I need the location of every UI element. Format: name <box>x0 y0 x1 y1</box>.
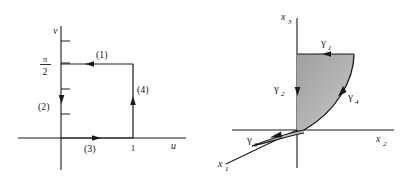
panel-x-space: x 3 x 2 x 1 γ 1 γ 2 γ 3 γ 4 <box>208 0 416 177</box>
x1-axis-label: x <box>217 158 223 169</box>
gamma-3-subscript: 3 <box>253 141 258 149</box>
x1-axis-subscript: 1 <box>225 165 229 173</box>
pi-over-two-denominator: 2 <box>43 66 48 77</box>
gamma-3-arrowhead <box>270 132 282 138</box>
segment-3-label: (3) <box>84 143 96 155</box>
figure-root: v u π 2 1 (1) (2) (3) (4) <box>0 0 416 177</box>
gamma-4-label: γ <box>347 90 353 102</box>
panel-uv-plane: v u π 2 1 (1) (2) (3) (4) <box>0 0 208 177</box>
gamma-2-subscript: 2 <box>281 90 285 98</box>
segment-2-label: (2) <box>38 101 50 113</box>
x-space-diagram: x 3 x 2 x 1 γ 1 γ 2 γ 3 γ 4 <box>208 0 416 177</box>
pi-over-two-numerator: π <box>43 54 48 64</box>
x2-axis-label: x <box>375 133 381 144</box>
segment-1-arrowhead <box>85 61 94 67</box>
gamma-1-subscript: 1 <box>328 44 332 52</box>
segment-1-label: (1) <box>96 49 108 61</box>
gamma-4-subscript: 4 <box>355 98 359 106</box>
gamma-2-label: γ <box>273 82 279 94</box>
segment-2-arrowhead <box>59 95 65 104</box>
segment-4-label: (4) <box>137 84 149 96</box>
segment-4-arrowhead <box>130 96 136 105</box>
x2-axis-subscript: 2 <box>383 140 387 148</box>
u-axis-label: u <box>171 140 176 151</box>
segment-3-arrowhead <box>92 135 101 141</box>
x3-axis-subscript: 3 <box>287 18 292 26</box>
v-axis-label: v <box>53 25 58 36</box>
gamma-3-label: γ <box>246 133 252 145</box>
uv-diagram: v u π 2 1 (1) (2) (3) (4) <box>0 0 208 177</box>
x3-axis-label: x <box>280 11 286 22</box>
u-tick-label-one: 1 <box>131 143 136 153</box>
gamma-1-label: γ <box>320 36 326 48</box>
